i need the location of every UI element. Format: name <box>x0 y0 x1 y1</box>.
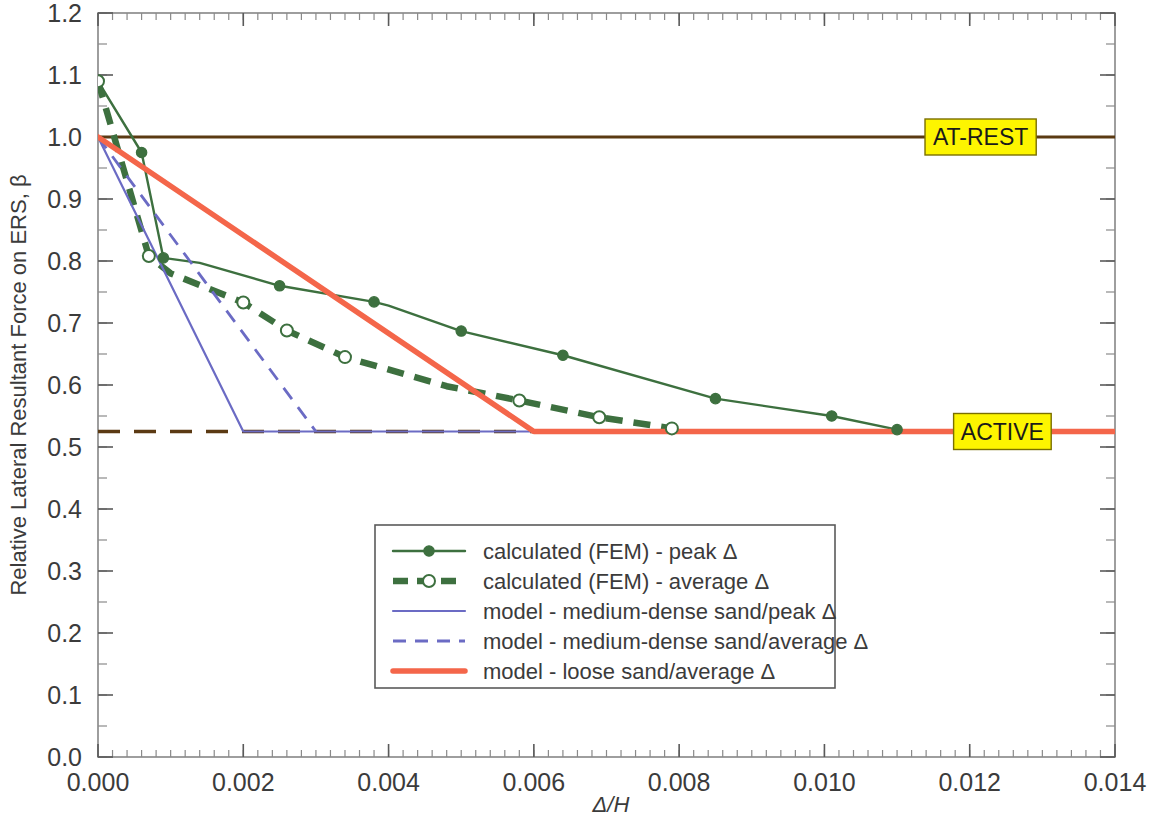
y-tick-label: 1.0 <box>47 123 82 151</box>
y-tick-label: 0.4 <box>47 495 82 523</box>
marker-fem_average <box>92 75 104 87</box>
series-line-fem_peak <box>98 81 897 429</box>
legend-label-fem_average: calculated (FEM) - average Δ <box>483 569 769 594</box>
series-line-model_md_peak <box>98 137 1115 432</box>
y-tick-label: 0.5 <box>47 433 82 461</box>
marker-fem_average <box>237 297 249 309</box>
x-tick-label: 0.010 <box>793 768 856 796</box>
legend-marker-fem_peak <box>424 546 434 556</box>
x-tick-label: 0.008 <box>648 768 711 796</box>
x-tick-label: 0.004 <box>357 768 420 796</box>
marker-fem_average <box>339 351 351 363</box>
x-tick-label: 0.002 <box>212 768 275 796</box>
legend-marker-fem_average <box>423 575 435 587</box>
reference-lines <box>98 137 1115 432</box>
x-tick-label: 0.012 <box>938 768 1001 796</box>
y-tick-label: 0.3 <box>47 557 82 585</box>
y-tick-label: 0.6 <box>47 371 82 399</box>
marker-fem_average <box>281 324 293 336</box>
y-axis-title: Relative Lateral Resultant Force on ERS,… <box>6 174 31 595</box>
x-tick-label: 0.006 <box>503 768 566 796</box>
x-axis-title: Δ/H <box>592 792 630 817</box>
marker-fem_peak <box>136 147 146 157</box>
y-axis-tick-labels: 0.00.10.20.30.40.50.60.70.80.91.01.11.2 <box>47 0 82 771</box>
series-line-model_loose_average <box>98 137 1115 432</box>
y-tick-label: 0.1 <box>47 681 82 709</box>
legend-label-fem_peak: calculated (FEM) - peak Δ <box>483 539 738 564</box>
marker-fem_average <box>143 250 155 262</box>
legend-label-model_md_average: model - medium-dense sand/average Δ <box>483 629 869 654</box>
series-markers <box>92 75 902 435</box>
marker-fem_peak <box>892 424 902 434</box>
y-tick-label: 1.1 <box>47 61 82 89</box>
reference-line-labels: AT-RESTACTIVE <box>925 119 1051 450</box>
marker-fem_peak <box>456 326 466 336</box>
marker-fem_average <box>593 411 605 423</box>
marker-fem_average <box>666 422 678 434</box>
legend-label-model_loose_average: model - loose sand/average Δ <box>483 659 776 684</box>
marker-fem_peak <box>158 253 168 263</box>
y-tick-label: 0.7 <box>47 309 82 337</box>
marker-fem_peak <box>826 411 836 421</box>
marker-fem_peak <box>558 350 568 360</box>
marker-fem_peak <box>710 393 720 403</box>
annotation-active: ACTIVE <box>954 414 1052 450</box>
annotation-label-at_rest: AT-REST <box>933 124 1028 150</box>
x-tick-label: 0.000 <box>67 768 130 796</box>
chart-page: 0.0000.0020.0040.0060.0080.0100.0120.014… <box>0 0 1151 836</box>
marker-fem_peak <box>369 297 379 307</box>
y-tick-label: 0.2 <box>47 619 82 647</box>
y-tick-label: 1.2 <box>47 0 82 27</box>
beta-vs-delta-over-h-chart: 0.0000.0020.0040.0060.0080.0100.0120.014… <box>0 0 1151 836</box>
y-tick-label: 0.0 <box>47 743 82 771</box>
y-tick-label: 0.8 <box>47 247 82 275</box>
legend-label-model_md_peak: model - medium-dense sand/peak Δ <box>483 599 837 624</box>
annotation-label-active: ACTIVE <box>961 419 1044 445</box>
x-tick-label: 0.014 <box>1084 768 1147 796</box>
marker-fem_peak <box>274 281 284 291</box>
annotation-at_rest: AT-REST <box>925 119 1036 155</box>
y-tick-label: 0.9 <box>47 185 82 213</box>
marker-fem_average <box>513 395 525 407</box>
chart-legend: calculated (FEM) - peak Δcalculated (FEM… <box>375 525 869 688</box>
